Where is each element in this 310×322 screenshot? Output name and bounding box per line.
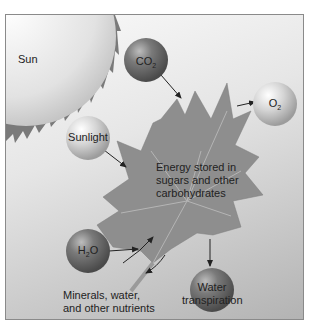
arrow-co2-to-leaf — [161, 75, 181, 98]
energy-stored-text: Energy stored in sugars and other carboh… — [156, 161, 239, 200]
leaf-stem — [131, 263, 153, 291]
sun-icon — [6, 15, 116, 126]
sun-label: Sun — [18, 53, 38, 66]
o2-label: O2 — [262, 97, 288, 111]
h2o-label: H2O — [72, 244, 104, 258]
arrow-leaf-to-o2 — [237, 102, 255, 106]
water-transpiration-label: Water transpiration — [182, 281, 242, 307]
diagram-frame: Sun CO2 O2 Sunlight H2O Water transpirat… — [5, 14, 304, 320]
co2-label: CO2 — [131, 55, 161, 69]
nutrients-text: Minerals, water, and other nutrients — [63, 289, 155, 315]
sunlight-label: Sunlight — [64, 131, 112, 143]
